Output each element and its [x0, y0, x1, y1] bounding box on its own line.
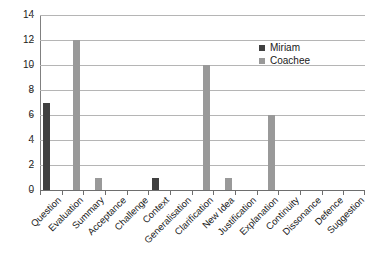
y-tick-mark [30, 15, 34, 16]
bar-coachee [95, 178, 102, 191]
bars-layer [40, 15, 365, 190]
y-tick-mark [30, 65, 34, 66]
legend: MiriamCoachee [256, 39, 313, 69]
y-tick-mark [30, 190, 34, 191]
bar-group [322, 15, 344, 190]
bar-group [192, 15, 214, 190]
legend-item: Miriam [259, 41, 310, 54]
legend-item: Coachee [259, 54, 310, 67]
bar-coachee [203, 65, 210, 190]
y-tick-mark [30, 165, 34, 166]
y-tick-mark [30, 40, 34, 41]
bar-miriam [43, 103, 50, 191]
legend-swatch-icon [259, 45, 265, 51]
legend-swatch-icon [259, 58, 265, 64]
y-tick-mark [30, 90, 34, 91]
y-axis: 02468101214 [0, 15, 34, 190]
bar-group [148, 15, 170, 190]
bar-group [343, 15, 365, 190]
bar-coachee [73, 40, 80, 190]
legend-label: Miriam [270, 41, 300, 54]
bar-miriam [152, 178, 159, 191]
bar-group [40, 15, 62, 190]
bar-group [213, 15, 235, 190]
bar-group [62, 15, 84, 190]
bar-chart: 02468101214 MiriamCoachee QuestionEvalua… [0, 0, 378, 262]
plot-area: MiriamCoachee [40, 15, 365, 190]
bar-group [235, 15, 257, 190]
y-tick-mark [30, 140, 34, 141]
bar-coachee [225, 178, 232, 191]
bar-group [83, 15, 105, 190]
bar-group [127, 15, 149, 190]
bar-group [105, 15, 127, 190]
legend-label: Coachee [270, 54, 310, 67]
y-tick-mark [30, 115, 34, 116]
x-axis-labels: QuestionEvaluationSummaryAcceptanceChall… [40, 195, 365, 262]
bar-coachee [268, 115, 275, 190]
bar-group [170, 15, 192, 190]
